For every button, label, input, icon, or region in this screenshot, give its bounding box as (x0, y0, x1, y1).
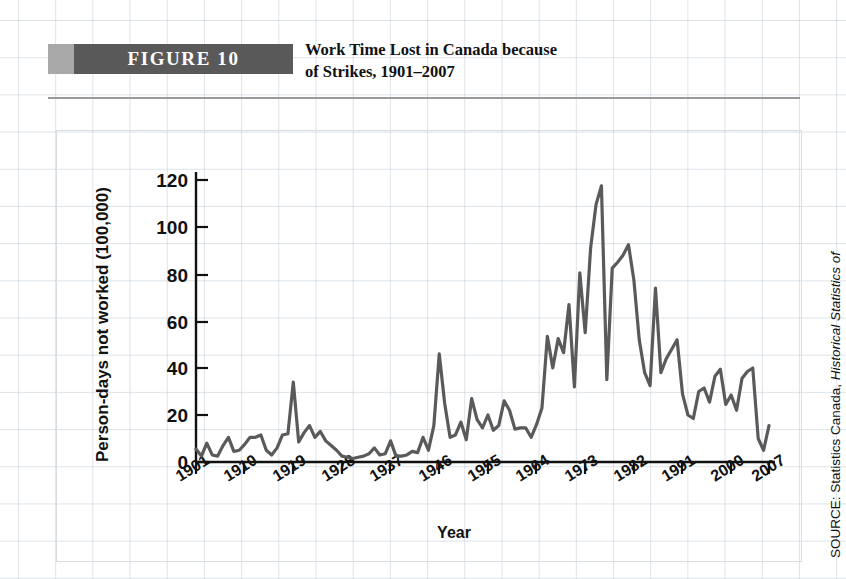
y-tick-label-80: 80 (167, 265, 188, 286)
x-axis-title: Year (437, 524, 471, 541)
figure-number-banner: FIGURE 10 (48, 44, 293, 74)
x-axis-tick-labels: 1901 1910 1919 1928 1937 1946 1955 1964 … (173, 451, 788, 484)
figure-title-line-1: Work Time Lost in Canada because (305, 39, 735, 61)
strike-days-line (196, 186, 769, 459)
x-tick-label-1955: 1955 (465, 451, 504, 484)
x-tick-label-1973: 1973 (562, 451, 601, 484)
x-tick-label-1982: 1982 (611, 451, 650, 484)
figure-header: FIGURE 10 Work Time Lost in Canada becau… (0, 0, 846, 100)
header-divider-rule (48, 97, 800, 99)
x-tick-label-2000: 2000 (708, 451, 747, 484)
figure-number-label: FIGURE 10 (127, 48, 239, 70)
y-tick-label-40: 40 (167, 358, 188, 379)
y-tick-label-100: 100 (156, 217, 188, 238)
line-chart: 0 20 40 60 80 100 120 (56, 130, 800, 560)
banner-body: FIGURE 10 (74, 44, 293, 74)
x-tick-label-1910: 1910 (221, 451, 260, 484)
source-prefix: SOURCE: Statistics Canada, (828, 380, 843, 558)
y-axis-ticks: 0 20 40 60 80 100 120 (156, 170, 208, 473)
x-tick-label-2007: 2007 (749, 451, 788, 484)
x-tick-label-1991: 1991 (659, 451, 698, 484)
x-tick-label-1964: 1964 (513, 451, 552, 484)
x-tick-label-1928: 1928 (319, 451, 358, 484)
x-tick-label-1919: 1919 (270, 451, 309, 484)
source-note: SOURCE: Statistics Canada, Historical St… (828, 88, 843, 558)
banner-left-cap (48, 44, 74, 74)
y-tick-label-20: 20 (167, 405, 188, 426)
figure-title-line-2: of Strikes, 1901–2007 (305, 61, 735, 83)
y-tick-label-60: 60 (167, 312, 188, 333)
y-tick-label-120: 120 (156, 170, 188, 191)
chart-area: 0 20 40 60 80 100 120 (56, 130, 800, 560)
figure-title: Work Time Lost in Canada because of Stri… (305, 39, 735, 83)
x-tick-label-1946: 1946 (416, 451, 455, 484)
y-axis-title: Person-days not worked (100,000) (93, 187, 112, 462)
source-publication-title: Historical Statistics of (828, 252, 843, 380)
figure-page: FIGURE 10 Work Time Lost in Canada becau… (0, 0, 846, 579)
